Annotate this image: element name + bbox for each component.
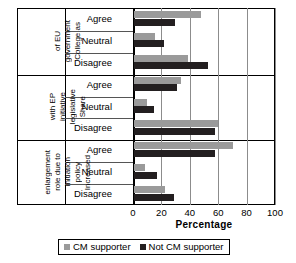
legend-label: Not CM supporter	[149, 241, 224, 252]
gridline	[190, 8, 191, 205]
bar-cm-supporter	[134, 55, 188, 62]
bar-cm-supporter	[134, 164, 145, 171]
bar-cm-supporter	[134, 120, 218, 127]
category-label: Agree	[47, 144, 112, 155]
bar-not-cm-supporter	[134, 150, 215, 157]
bar-cm-supporter	[134, 99, 147, 106]
legend-swatch-icon	[140, 244, 146, 250]
category-label: Agree	[47, 13, 112, 24]
x-tick-label: 0	[118, 207, 148, 218]
bar-not-cm-supporter	[134, 40, 164, 47]
x-tick-label: 80	[232, 207, 262, 218]
bar-chart: of EUgovernmentCollege asAgreeNeutralDis…	[0, 0, 296, 263]
bar-cm-supporter	[134, 33, 155, 40]
x-tick-label: 40	[175, 207, 205, 218]
bar-not-cm-supporter	[134, 172, 157, 179]
bar-cm-supporter	[134, 77, 181, 84]
bar-not-cm-supporter	[134, 194, 174, 201]
gridline	[247, 8, 248, 205]
x-tick-label: 20	[146, 207, 176, 218]
bar-not-cm-supporter	[134, 128, 215, 135]
category-label: Agree	[47, 79, 112, 90]
x-tick-label: 60	[203, 207, 233, 218]
category-label: Disagree	[47, 122, 112, 133]
chart-legend: CM supporter Not CM supporter	[58, 239, 230, 255]
category-label: Neutral	[47, 166, 112, 177]
category-label: Neutral	[47, 101, 112, 112]
category-label: Disagree	[47, 188, 112, 199]
category-label: Neutral	[47, 35, 112, 46]
bar-not-cm-supporter	[134, 19, 175, 26]
category-label: Disagree	[47, 57, 112, 68]
x-axis-title: Percentage	[133, 219, 275, 230]
legend-label: CM supporter	[73, 241, 131, 252]
gridline	[275, 8, 276, 205]
bar-cm-supporter	[134, 186, 165, 193]
plot-area	[133, 8, 275, 205]
bar-cm-supporter	[134, 142, 233, 149]
legend-swatch-icon	[64, 244, 70, 250]
gridline	[218, 8, 219, 205]
bar-not-cm-supporter	[134, 62, 208, 69]
legend-item-not-cm-supporter: Not CM supporter	[140, 241, 224, 252]
gridline	[161, 8, 162, 205]
legend-item-cm-supporter: CM supporter	[64, 241, 131, 252]
bar-cm-supporter	[134, 11, 201, 18]
x-tick-label: 100	[260, 207, 290, 218]
bar-not-cm-supporter	[134, 84, 177, 91]
bar-not-cm-supporter	[134, 106, 154, 113]
